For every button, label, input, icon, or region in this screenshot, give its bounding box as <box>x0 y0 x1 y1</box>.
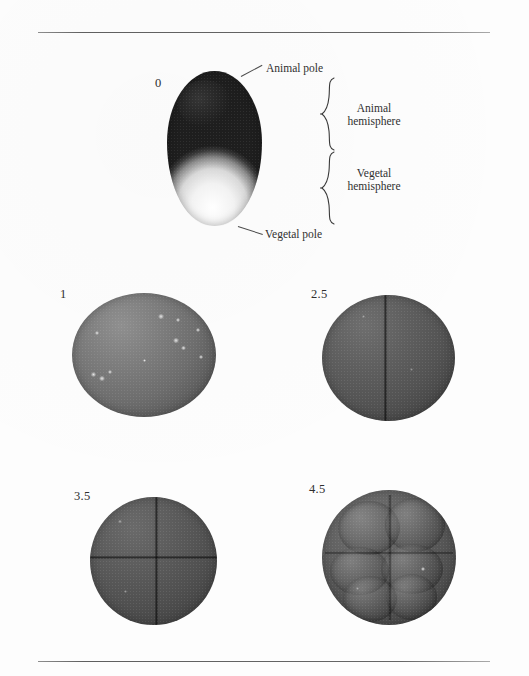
bottom-divider-rule <box>38 661 490 662</box>
embryo-speckle <box>99 376 105 381</box>
cleavage-furrow-vertical <box>388 495 392 619</box>
embryo-speckle <box>91 372 96 377</box>
embryo-speckle <box>124 590 127 593</box>
cleavage-furrow-horizontal <box>90 555 217 560</box>
figure-page: 0 Animal pole Vegetal pole Animal hemisp… <box>0 0 529 676</box>
stage-time-label-4-5: 4.5 <box>309 482 326 497</box>
embryo-stage-0 <box>167 71 262 226</box>
embryo-speckle <box>199 355 203 359</box>
cleavage-furrow-vertical <box>383 295 388 421</box>
embryo-stage-4-5 <box>322 490 456 625</box>
annotation-animal-hemisphere: Animal hemisphere <box>338 102 410 128</box>
embryo-speckle <box>181 346 186 350</box>
embryo-speckle <box>362 315 365 318</box>
embryo-speckle <box>95 331 99 335</box>
embryo-speckle <box>356 587 359 590</box>
annotation-vegetal-pole: Vegetal pole <box>265 228 322 241</box>
annotation-vegetal-hemisphere: Vegetal hemisphere <box>338 167 410 193</box>
embryo-speckle <box>143 359 146 362</box>
annotation-animal-pole: Animal pole <box>266 62 323 75</box>
stage-time-label-2-5: 2.5 <box>311 287 328 302</box>
top-divider-rule <box>38 32 490 33</box>
embryo-stage-2-5 <box>322 295 455 421</box>
embryo-speckle <box>173 338 179 343</box>
leader-line-vegetal-pole <box>238 226 263 235</box>
stage-time-label-0: 0 <box>155 76 162 91</box>
embryo-stage-3-5 <box>90 497 217 625</box>
scan-grain-overlay <box>322 295 455 421</box>
annotation-animal-hemisphere-line2: hemisphere <box>338 115 410 128</box>
annotation-vegetal-hemisphere-line1: Vegetal <box>338 167 410 180</box>
embryo-speckle <box>196 328 200 332</box>
annotation-animal-hemisphere-line1: Animal <box>338 102 410 115</box>
embryo-speckle <box>118 520 122 523</box>
scan-grain-overlay <box>72 293 216 417</box>
stage-time-label-3-5: 3.5 <box>74 489 91 504</box>
embryo-speckle <box>108 370 112 374</box>
annotation-vegetal-hemisphere-line2: hemisphere <box>338 180 410 193</box>
cleavage-furrow-horizontal <box>325 551 454 555</box>
embryo-highlight <box>178 80 230 127</box>
stage-time-label-1: 1 <box>60 287 67 302</box>
embryo-speckle <box>176 318 180 322</box>
embryo-stage-1 <box>72 293 216 417</box>
leader-line-animal-pole <box>241 65 263 77</box>
brace-vegetal-hemisphere <box>320 151 338 225</box>
blastomere <box>386 574 437 620</box>
embryo-speckle <box>410 368 413 371</box>
brace-animal-hemisphere <box>320 77 338 151</box>
cleavage-furrow-vertical <box>154 497 159 625</box>
embryo-speckle <box>158 314 164 319</box>
